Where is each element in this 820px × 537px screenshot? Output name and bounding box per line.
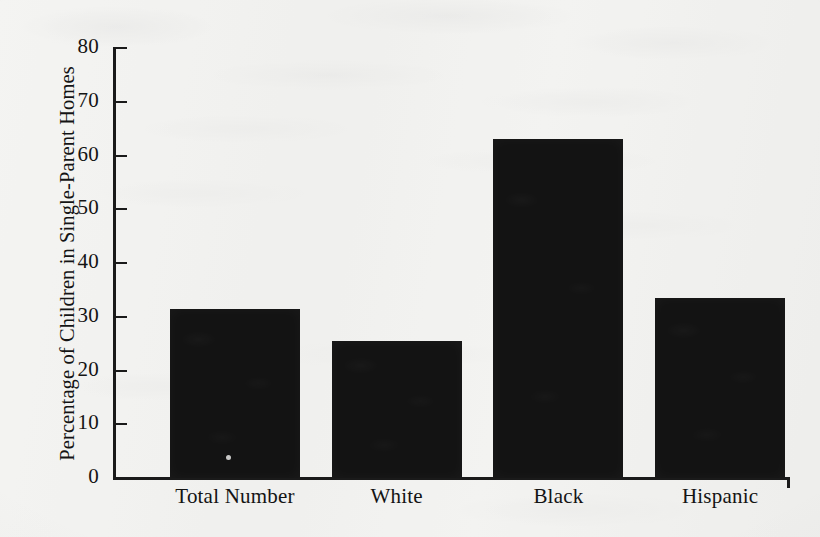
y-axis-tick (116, 370, 127, 372)
y-axis-tick-label: 10 (59, 410, 99, 435)
y-axis-tick-label: 60 (59, 142, 99, 167)
y-axis-tick-label: 70 (59, 88, 99, 113)
plot-area: Percentage of Children in Single-Parent … (0, 0, 820, 537)
y-axis-tick-label: 20 (59, 357, 99, 382)
y-axis-tick (116, 316, 127, 318)
y-axis-tick-label: 0 (59, 464, 99, 489)
bar-hispanic (655, 298, 785, 478)
y-axis-tick-label: 40 (59, 249, 99, 274)
y-axis-tick (116, 477, 127, 479)
scan-speck (226, 455, 231, 460)
y-axis-tick-label: 30 (59, 303, 99, 328)
bar-total-number (170, 309, 300, 478)
y-axis-tick (116, 155, 127, 157)
y-axis-tick (116, 423, 127, 425)
y-axis-tick (116, 208, 127, 210)
y-axis-tick (116, 47, 127, 49)
y-axis-tick-label: 80 (59, 34, 99, 59)
bar-chart-figure: Percentage of Children in Single-Parent … (0, 0, 820, 537)
y-axis-tick (116, 262, 127, 264)
bar-black (493, 139, 623, 478)
x-axis-label-hispanic: Hispanic (620, 484, 820, 509)
y-axis-tick (116, 101, 127, 103)
bar-white (332, 341, 462, 478)
y-axis-tick-label: 50 (59, 195, 99, 220)
